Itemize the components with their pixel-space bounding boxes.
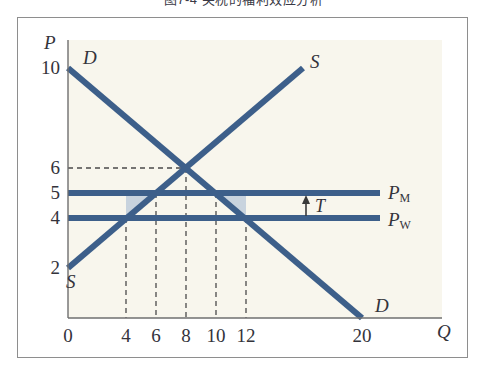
y-tick-6: 6 [24,158,60,177]
x-tick-20: 20 [347,326,377,345]
demand-curve-label-top: D [83,48,97,67]
world-price-label: PW [388,210,411,229]
y-tick-4: 4 [24,208,60,227]
x-tick-6: 6 [141,326,171,345]
world-price-symbol: P [388,209,400,230]
x-axis-label: Q [437,322,451,341]
x-tick-12: 12 [231,326,261,345]
supply-curve-label-top: S [310,52,320,71]
chart-labels-layer: P Q 10 6 5 4 2 0 4 6 8 10 12 20 D D S S … [0,0,487,380]
x-tick-4: 4 [111,326,141,345]
y-tick-10: 10 [24,58,60,77]
domestic-price-label: PM [388,183,410,202]
y-tick-5: 5 [24,183,60,202]
y-tick-2: 2 [24,258,60,277]
domestic-price-symbol: P [388,182,400,203]
supply-curve-label-bottom: S [66,272,76,291]
tariff-label: T [315,197,325,215]
world-price-subscript: W [400,218,411,232]
x-tick-0: 0 [53,326,83,345]
x-tick-8: 8 [171,326,201,345]
y-axis-label: P [44,33,56,52]
demand-curve-label-bottom: D [375,296,389,315]
domestic-price-subscript: M [400,191,411,205]
x-tick-10: 10 [201,326,231,345]
